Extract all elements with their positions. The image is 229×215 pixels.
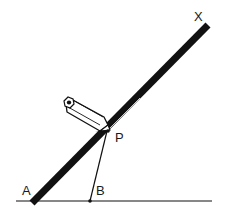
diagram-figure (0, 0, 229, 215)
diagram-canvas: X P A B (0, 0, 229, 215)
point-b (88, 199, 92, 203)
point-p (106, 129, 110, 133)
label-p: P (115, 131, 124, 144)
label-a: A (22, 184, 31, 197)
label-b: B (96, 184, 105, 197)
pencil-icon (64, 97, 110, 132)
straightedge (32, 25, 208, 203)
ruler-highlight (110, 98, 140, 128)
label-x: X (194, 10, 203, 23)
